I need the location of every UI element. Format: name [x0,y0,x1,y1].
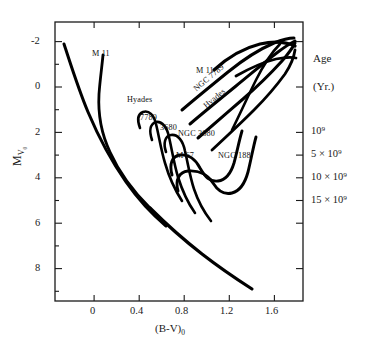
series-combined-main-sequence [150,208,252,289]
age-tick-label-15e9: 15 × 10⁹ [311,195,347,206]
y-tick-label-4: 6 [35,218,40,229]
annotation-3680: 3680 [160,124,177,132]
y-tick-label-2: 2 [35,127,40,138]
x-tick-label-0: 0 [90,306,95,317]
y-axis-ticks-right [296,42,303,269]
annotation-ngc-188: NGC 188 [218,152,251,160]
cluster-sequences [64,38,296,289]
y-axis-title-text: MV0 [10,147,24,166]
x-tick-label-1: 0.4 [130,306,143,317]
color-magnitude-diagram: -2 0 2 4 6 8 MV0 0 0.4 0.8 1.2 1.6 (B-V)… [0,0,369,350]
right-axis-title-line2: (Yr.) [313,81,334,92]
annotation-ngc-3680: NGC 3680 [178,130,215,138]
y-tick-label-3: 4 [35,172,40,183]
age-tick-label-10e9: 10 × 10⁹ [311,172,347,183]
x-tick-label-4: 1.6 [265,306,278,317]
x-tick-label-3: 1.2 [220,306,233,317]
x-axis-ticks-bottom [94,295,274,301]
age-tick-label-1e9: 10⁹ [311,126,325,137]
annotation-m67: M 67 [176,152,194,160]
y-tick-label-0: -2 [31,36,40,47]
series-m11-turnoff-hook [99,55,150,208]
annotation-m11-left: M 11 [92,50,110,58]
y-tick-label-1: 0 [35,81,40,92]
y-axis-title: MV0 [10,147,25,166]
x-axis-title: (B-V)0 [155,323,185,334]
right-axis-title-line1: Age [313,53,331,64]
series-ngc3680-giant-branch [212,50,295,150]
annotation-7789: 7789 [140,114,157,122]
age-tick-label-5e9: 5 × 10⁹ [311,149,342,160]
x-axis-ticks-top [94,22,274,28]
y-axis-ticks-left [55,42,62,292]
x-tick-label-2: 0.8 [175,306,188,317]
annotation-hyades-left: Hyades [127,96,152,104]
y-tick-label-5: 8 [35,263,40,274]
